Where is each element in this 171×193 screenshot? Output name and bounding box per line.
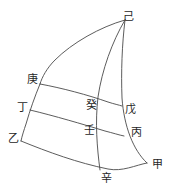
diagram-canvas: 己 庚 丁 乙 癸 壬 戊 丙 甲 辛: [0, 0, 171, 193]
outer-left-arc: [40, 20, 125, 84]
diagram-line-art: [0, 0, 171, 193]
middle-curve: [97, 20, 125, 170]
curve-group: [21, 20, 147, 170]
arc-upper: [40, 84, 122, 106]
arc-lower: [21, 141, 147, 170]
left-edge-curve: [21, 84, 40, 141]
arc-middle: [30, 110, 124, 136]
right-edge-curve: [122, 20, 147, 163]
